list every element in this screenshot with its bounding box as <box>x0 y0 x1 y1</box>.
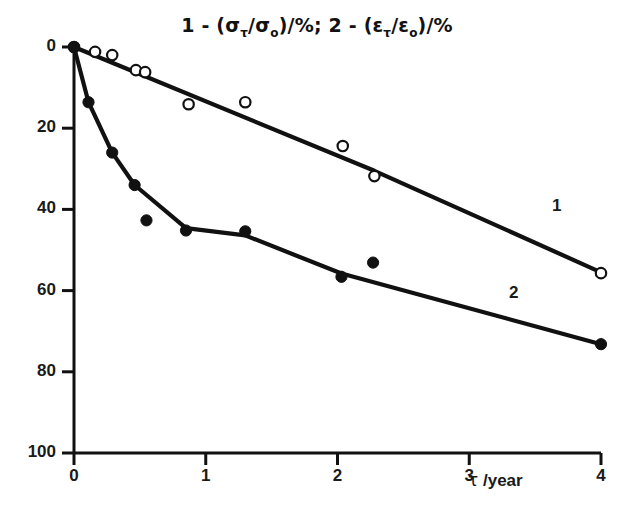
series-1-point <box>369 171 379 181</box>
x-axis-tick-label: 0 <box>49 466 99 486</box>
series-1-point <box>140 67 150 77</box>
y-axis-tick-label: 20 <box>0 117 56 137</box>
x-axis-tick-label: 1 <box>181 466 231 486</box>
series-1-curve-label: 1 <box>552 196 561 216</box>
y-axis-tick-label: 60 <box>0 280 56 300</box>
y-axis-tick-label: 80 <box>0 361 56 381</box>
series-2-point <box>129 179 140 190</box>
series-2-point <box>240 226 251 237</box>
series-1-point <box>338 141 348 151</box>
x-axis-title-unit: /year <box>478 471 522 490</box>
y-axis-tick-label: 0 <box>0 36 56 56</box>
axis-lines <box>74 47 601 453</box>
series-lines <box>74 47 601 344</box>
series-2-point <box>367 257 378 268</box>
chart-figure: 1 - (στ/σo)/%; 2 - (ετ/εo)/% 10080604020… <box>0 0 634 529</box>
x-axis-title: τ /year <box>468 470 523 491</box>
series-1-point <box>107 50 117 60</box>
y-axis-ticks <box>62 47 74 453</box>
series-1-point <box>90 47 100 57</box>
series-2-point <box>68 41 79 52</box>
series-2-point <box>180 225 191 236</box>
series-2-point <box>141 215 152 226</box>
series-1-point <box>240 97 250 107</box>
series-1-point <box>596 268 606 278</box>
series-2-point <box>595 339 606 350</box>
x-axis-ticks <box>74 453 601 465</box>
y-axis-tick-label: 100 <box>0 442 56 462</box>
x-axis-tick-label: 4 <box>576 466 626 486</box>
series-1-line <box>74 47 601 272</box>
series-2-point <box>336 271 347 282</box>
series-2-line <box>74 47 601 344</box>
series-2-point <box>107 147 118 158</box>
series-1-point <box>183 99 193 109</box>
x-axis-tick-label: 2 <box>313 466 363 486</box>
x-axis-title-symbol: τ <box>468 470 478 490</box>
y-axis-tick-label: 40 <box>0 198 56 218</box>
series-2-point <box>83 97 94 108</box>
plot-area <box>0 0 634 529</box>
series-2-curve-label: 2 <box>509 283 518 303</box>
